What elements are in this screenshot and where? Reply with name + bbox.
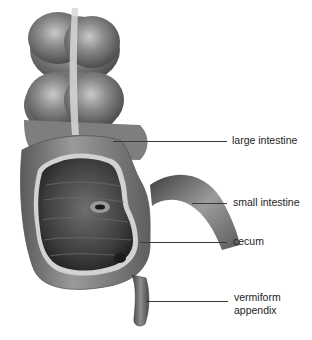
small-intestine-shape: [150, 175, 240, 250]
leader-line-cecum: [140, 242, 227, 243]
leader-line-small-intestine: [192, 203, 227, 204]
label-appendix-line1: vermiform: [234, 291, 281, 304]
label-appendix-line2: appendix: [234, 304, 277, 317]
leader-line-appendix: [146, 301, 228, 302]
cecum-shape: [21, 136, 151, 290]
label-cecum: cecum: [233, 235, 264, 248]
intestine-illustration: [0, 0, 312, 340]
leader-line-large-intestine: [113, 141, 227, 142]
label-small-intestine: small intestine: [233, 196, 300, 209]
label-large-intestine: large intestine: [232, 134, 297, 147]
